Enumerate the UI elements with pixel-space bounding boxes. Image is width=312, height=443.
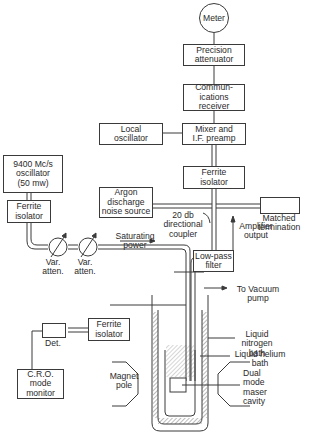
low-pass-filter-node: Low-pass filter (193, 250, 234, 272)
ferrite-isolator-bottom-node: Ferrite isolator (88, 318, 130, 341)
magnet-pole-label: Magnet pole (106, 372, 142, 391)
amplifier-output-label: Amplifier output (233, 222, 279, 241)
communications-receiver-node: Commun- ications receiver (183, 84, 245, 111)
precision-attenuator-node: Precision attenuator (183, 44, 245, 66)
liquid-helium-label: Liquid helium bath (224, 350, 296, 369)
oscillator-node: 9400 Mc/s oscillator (50 mw) (3, 155, 63, 193)
local-oscillator-node: Local oscillator (99, 123, 163, 145)
var-atten-1-label: Var. atten. (38, 258, 68, 277)
maser-cavity-label: Dual mode maser cavity (243, 369, 283, 407)
detector-label: Det. (38, 339, 68, 348)
matched-termination-node (260, 197, 300, 214)
meter-node: Meter (199, 3, 229, 33)
ferrite-isolator-top-node: Ferrite isolator (183, 166, 245, 189)
vacuum-pump-label: To Vacuum pump (228, 285, 288, 304)
saturating-power-label: Saturating power (110, 232, 160, 251)
argon-source-node: Argon discharge noise source (99, 187, 153, 218)
directional-coupler-label: 20 db directional coupler (158, 211, 208, 239)
var-atten-2-label: Var. atten. (70, 258, 100, 277)
ferrite-isolator-left-node: Ferrite isolator (7, 200, 51, 223)
detector-node (42, 323, 66, 338)
mixer-node: Mixer and I.F. preamp (182, 123, 246, 145)
cro-monitor-node: C.R.O. mode monitor (17, 369, 64, 399)
